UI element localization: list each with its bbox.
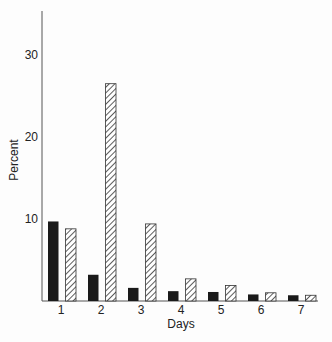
x-axis-label: Days [167,317,194,331]
bar-hatched-day-5 [226,285,237,301]
bar-hatched-day-2 [106,84,117,301]
x-tick-label: 3 [138,303,145,317]
bar-solid-day-1 [48,221,59,301]
bar-hatched-day-4 [186,279,197,301]
y-axis-label: Percent [7,139,21,181]
bars [48,84,316,301]
bar-hatched-day-1 [66,229,77,301]
bar-hatched-day-3 [146,224,157,301]
y-tick-labels: 102030 [25,48,39,226]
bar-solid-day-6 [248,294,259,301]
bar-solid-day-7 [288,295,299,301]
y-tick-label: 20 [25,130,39,144]
x-tick-label: 7 [298,303,305,317]
axes [42,11,318,301]
x-tick-label: 2 [98,303,105,317]
y-tick-label: 10 [25,212,39,226]
x-tick-label: 4 [178,303,185,317]
x-tick-labels: 1234567 [58,303,305,317]
y-tick-label: 30 [25,48,39,62]
bar-solid-day-3 [128,288,139,301]
bar-solid-day-5 [208,292,219,301]
bar-hatched-day-6 [266,293,277,301]
x-tick-label: 1 [58,303,65,317]
bar-hatched-day-7 [306,295,317,301]
x-tick-label: 6 [258,303,265,317]
bar-chart: 102030 1234567 Percent Days [0,0,332,342]
bar-solid-day-2 [88,275,99,301]
x-tick-label: 5 [218,303,225,317]
bar-solid-day-4 [168,291,179,301]
